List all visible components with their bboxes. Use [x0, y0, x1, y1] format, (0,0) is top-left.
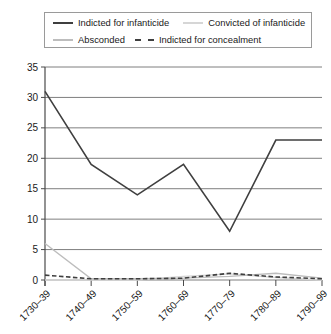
- legend-item-indicted-for-infanticide: Indicted for infanticide: [53, 17, 169, 28]
- data-series: [45, 91, 322, 280]
- y-tick-label: 5: [32, 244, 38, 255]
- legend-item-indicted-for-concealment: Indicted for concealment: [135, 34, 261, 45]
- x-tick-label: 1780–89: [248, 287, 284, 323]
- x-tick-label: 1750–59: [109, 287, 145, 323]
- legend-item-absconded: Absconded: [53, 34, 125, 45]
- y-axis: [41, 67, 45, 286]
- legend-item-convicted-of-infanticide: Convicted of infanticide: [183, 17, 305, 28]
- plot-area: 05101520253035 1730–391740–491750–591760…: [0, 56, 331, 334]
- legend-row-bottom: Absconded Indicted for concealment: [45, 31, 311, 48]
- y-tick-label: 15: [27, 183, 39, 194]
- y-tick-label: 10: [27, 214, 39, 225]
- legend-label: Indicted for infanticide: [78, 17, 169, 28]
- series-line: [45, 243, 322, 278]
- y-tick-label: 25: [27, 122, 39, 133]
- x-tick-labels: 1730–391740–491750–591760–691770–791780–…: [17, 287, 330, 323]
- x-axis: [45, 280, 322, 286]
- legend-label: Convicted of infanticide: [208, 17, 305, 28]
- legend-dashed-swatch-icon: [135, 39, 154, 41]
- infanticide-line-chart: Indicted for infanticide Convicted of in…: [0, 0, 331, 334]
- chart-svg: 05101520253035 1730–391740–491750–591760…: [0, 56, 331, 334]
- legend-label: Absconded: [78, 34, 125, 45]
- legend-label: Indicted for concealment: [159, 34, 261, 45]
- x-tick-label: 1730–39: [17, 287, 53, 323]
- gridlines: [45, 67, 322, 280]
- y-tick-labels: 05101520253035: [27, 62, 39, 286]
- x-tick-label: 1790–99: [294, 287, 330, 323]
- y-tick-label: 20: [27, 153, 39, 164]
- x-tick-label: 1740–49: [63, 287, 99, 323]
- x-tick-label: 1770–79: [202, 287, 238, 323]
- x-tick-label: 1760–69: [156, 287, 192, 323]
- legend-line-swatch-icon: [183, 22, 203, 24]
- legend-line-swatch-icon: [53, 22, 73, 24]
- legend-row-top: Indicted for infanticide Convicted of in…: [45, 14, 311, 31]
- chart-legend: Indicted for infanticide Convicted of in…: [44, 12, 312, 48]
- series-line: [45, 91, 322, 231]
- y-tick-label: 35: [27, 62, 39, 73]
- legend-line-swatch-icon: [53, 39, 73, 41]
- y-tick-label: 0: [32, 275, 38, 286]
- y-tick-label: 30: [27, 92, 39, 103]
